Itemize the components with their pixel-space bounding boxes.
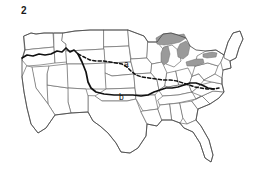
- state-texas: [88, 96, 147, 153]
- state-minnesota: [128, 30, 148, 59]
- state-utah: [47, 64, 68, 88]
- us-map-svg: a b: [0, 0, 259, 178]
- state-oregon: [22, 47, 55, 66]
- state-montana: [62, 30, 104, 51]
- annotation-label-b: b: [119, 92, 124, 102]
- lake-huron: [177, 41, 190, 59]
- state-florida: [180, 120, 213, 162]
- state-kansas: [105, 73, 135, 89]
- annotation-label-a: a: [124, 59, 129, 69]
- state-north-dakota: [104, 30, 129, 47]
- figure-container: 2: [0, 0, 259, 178]
- state-wisconsin: [147, 42, 163, 64]
- state-new-mexico: [68, 88, 88, 113]
